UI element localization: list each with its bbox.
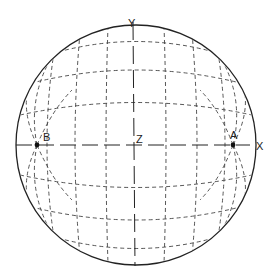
point-a-marker (231, 143, 236, 148)
z-axis-label: Z (136, 133, 143, 145)
sphere-diagram: Y X Z A B (0, 0, 277, 276)
x-axis-label: X (256, 140, 264, 152)
point-a-label: A (230, 129, 238, 141)
y-axis-label: Y (128, 17, 136, 29)
point-b-marker (35, 143, 40, 148)
y-axis (133, 22, 135, 266)
point-b-label: B (43, 131, 50, 143)
